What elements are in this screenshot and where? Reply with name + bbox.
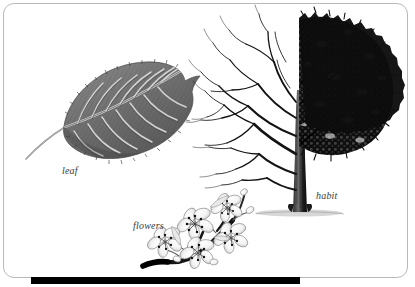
- footer-bar: [31, 277, 300, 284]
- blossom: [175, 206, 216, 240]
- leaf-illustration: [26, 54, 214, 169]
- label-habit: habit: [316, 190, 338, 201]
- blossom: [178, 234, 216, 269]
- habit-illustration: [186, 5, 405, 216]
- leaf-texture: [54, 54, 214, 169]
- illustration-stage: [4, 4, 407, 277]
- label-flowers: flowers: [133, 220, 164, 231]
- illustration-canvas: [4, 4, 407, 277]
- leaf-petiole-highlight: [26, 127, 65, 159]
- tree-bare-branches: [186, 5, 296, 190]
- crown-silhouette-edge: [299, 12, 405, 134]
- botanical-plate: leaf flowers habit: [0, 0, 415, 287]
- flower-twig-base: [143, 262, 168, 266]
- leaf-petiole: [26, 127, 65, 159]
- label-leaf: leaf: [62, 165, 78, 176]
